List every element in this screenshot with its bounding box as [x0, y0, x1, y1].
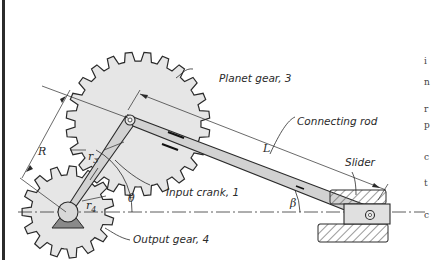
- mechanism-diagram: Planet gear, 3 Connecting rod Slider Inp…: [0, 0, 433, 260]
- svg-text:n: n: [424, 77, 430, 87]
- svg-text:t: t: [424, 178, 428, 188]
- output-gear-hub: [58, 202, 78, 222]
- slider-guide-bottom-icon: [318, 224, 388, 242]
- input-crank-label: Input crank, 1: [166, 186, 239, 198]
- diagram-frame: Planet gear, 3 Connecting rod Slider Inp…: [0, 0, 433, 260]
- connecting-rod-label: Connecting rod: [297, 115, 378, 127]
- svg-text:c: c: [424, 210, 429, 220]
- svg-text:c: c: [424, 152, 429, 162]
- cropped-page-text: i n r p c t c: [424, 56, 430, 220]
- svg-text:p: p: [424, 120, 430, 130]
- svg-text:r: r: [424, 104, 429, 114]
- slider-label: Slider: [345, 156, 376, 168]
- symbol-beta: β: [289, 197, 296, 210]
- symbol-L: L: [262, 142, 270, 155]
- symbol-theta: θ: [128, 192, 135, 205]
- svg-text:i: i: [424, 56, 427, 66]
- planet-gear-label: Planet gear, 3: [219, 72, 292, 84]
- symbol-R: R: [37, 145, 46, 158]
- output-gear-label: Output gear, 4: [133, 233, 209, 245]
- slider-guide-top-icon: [330, 190, 386, 204]
